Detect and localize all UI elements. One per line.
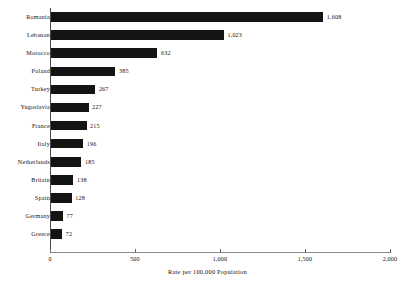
bar-with-value: 72 <box>50 229 72 239</box>
bar-row: France215 <box>0 117 415 135</box>
bar <box>50 157 81 167</box>
bar-value-label: 196 <box>87 141 97 147</box>
bar <box>50 12 323 22</box>
bar-row: Britain138 <box>0 171 415 189</box>
bar-row: Lebanon1,023 <box>0 26 415 44</box>
bar-value-label: 385 <box>119 68 129 74</box>
category-label: Spain <box>0 195 50 201</box>
x-tick-label: 0 <box>48 256 51 262</box>
bar-with-value: 215 <box>50 121 100 131</box>
x-tick-mark <box>305 249 306 253</box>
bar-row: Poland385 <box>0 62 415 80</box>
bar <box>50 103 89 113</box>
bar-value-label: 227 <box>92 104 102 110</box>
bar <box>50 139 83 149</box>
bar-value-label: 77 <box>67 213 74 219</box>
bar-value-label: 215 <box>90 123 100 129</box>
bar <box>50 85 95 95</box>
bar-row: Greece72 <box>0 225 415 243</box>
x-tick-label: 2,000 <box>383 256 398 262</box>
category-label: Romania <box>0 14 50 20</box>
bar-row: Spain128 <box>0 189 415 207</box>
bar-with-value: 385 <box>50 66 129 76</box>
category-label: Britain <box>0 177 50 183</box>
category-label: Turkey <box>0 86 50 92</box>
x-axis-title: Rate per 100,000 Population <box>0 269 415 275</box>
bar-value-label: 1,023 <box>227 32 242 38</box>
x-tick-mark <box>50 249 51 253</box>
bar-with-value: 1,023 <box>50 30 242 40</box>
bar-with-value: 632 <box>50 48 171 58</box>
bar <box>50 211 63 221</box>
bar <box>50 121 87 131</box>
plot-area: Romania1,608Lebanon1,023Morocco632Poland… <box>0 0 415 289</box>
x-tick-mark <box>390 249 391 253</box>
bar-value-label: 632 <box>161 50 171 56</box>
category-label: Italy <box>0 141 50 147</box>
bar <box>50 48 157 58</box>
bar-row: Yugoslavia227 <box>0 98 415 116</box>
bar <box>50 30 224 40</box>
bar-with-value: 128 <box>50 193 85 203</box>
bar <box>50 193 72 203</box>
category-label: France <box>0 123 50 129</box>
bar-row: Netherlands185 <box>0 153 415 171</box>
bar-value-label: 185 <box>85 159 95 165</box>
bar-with-value: 77 <box>50 211 73 221</box>
bar-value-label: 267 <box>99 86 109 92</box>
bar <box>50 175 73 185</box>
bar-value-label: 138 <box>77 177 87 183</box>
bar-row: Germany77 <box>0 207 415 225</box>
category-label: Morocco <box>0 50 50 56</box>
bar <box>50 229 62 239</box>
x-tick-mark <box>220 249 221 253</box>
x-tick-label: 500 <box>130 256 140 262</box>
category-label: Greece <box>0 231 50 237</box>
x-tick-label: 1,000 <box>213 256 228 262</box>
bar <box>50 67 115 77</box>
bar-with-value: 227 <box>50 103 102 113</box>
category-label: Poland <box>0 68 50 74</box>
category-label: Lebanon <box>0 32 50 38</box>
bar-row: Turkey267 <box>0 80 415 98</box>
bar-value-label: 72 <box>66 231 73 237</box>
category-label: Germany <box>0 213 50 219</box>
bar-value-label: 128 <box>75 195 85 201</box>
bar-with-value: 138 <box>50 175 87 185</box>
bar-row: Italy196 <box>0 135 415 153</box>
bar-chart: Romania1,608Lebanon1,023Morocco632Poland… <box>0 0 415 289</box>
bar-with-value: 185 <box>50 157 95 167</box>
x-tick-label: 1,500 <box>298 256 313 262</box>
bar-rows: Romania1,608Lebanon1,023Morocco632Poland… <box>0 8 415 243</box>
bar-value-label: 1,608 <box>327 14 342 20</box>
category-label: Netherlands <box>0 159 50 165</box>
bar-with-value: 267 <box>50 84 109 94</box>
bar-with-value: 1,608 <box>50 12 342 22</box>
category-label: Yugoslavia <box>0 104 50 110</box>
bar-row: Morocco632 <box>0 44 415 62</box>
bar-row: Romania1,608 <box>0 8 415 26</box>
y-axis-line <box>50 8 51 251</box>
x-tick-mark <box>135 249 136 253</box>
bar-with-value: 196 <box>50 139 97 149</box>
